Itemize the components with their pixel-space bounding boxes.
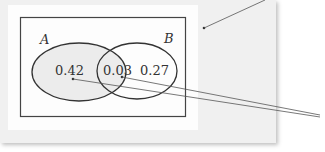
set-a-label: A (39, 32, 49, 47)
leader-line-paper (204, 0, 265, 28)
region-b-only-value: 0.27 (140, 63, 169, 78)
leader-line-a (73, 79, 320, 117)
region-intersection-value: 0.03 (103, 63, 132, 78)
set-b-label: B (163, 31, 174, 46)
leader-line-intersection (122, 77, 320, 115)
venn-diagram: A B 0.42 0.03 0.27 (0, 0, 325, 152)
region-a-only-value: 0.42 (55, 63, 84, 78)
